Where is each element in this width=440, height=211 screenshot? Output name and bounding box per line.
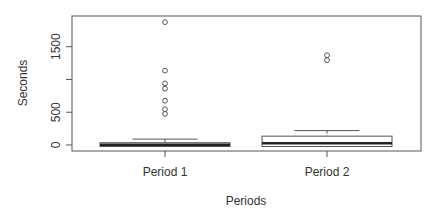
outlier-point (325, 53, 330, 58)
y-tick-label: 0 (49, 141, 63, 148)
outlier-point (163, 20, 168, 25)
plot-area (72, 16, 421, 151)
y-tick-label: 500 (49, 102, 63, 122)
iqr-box (262, 136, 392, 146)
box-2 (262, 53, 392, 147)
box-1 (100, 20, 230, 147)
x-tick-label: Period 1 (143, 165, 188, 179)
x-axis-title: Periods (226, 194, 267, 208)
box-plot-chart: 05001500 Period 1Period 2 Periods Second… (0, 0, 440, 211)
y-axis: 05001500 (49, 33, 72, 148)
y-tick-label: 1500 (49, 33, 63, 60)
x-tick-label: Period 2 (305, 165, 350, 179)
outlier-point (163, 107, 168, 112)
outlier-point (163, 111, 168, 116)
x-axis: Period 1Period 2 (143, 151, 350, 179)
outlier-point (163, 98, 168, 103)
outlier-point (325, 58, 330, 63)
y-axis-title: Seconds (16, 60, 30, 107)
plot-frame (72, 16, 421, 151)
outlier-point (163, 81, 168, 86)
outlier-point (163, 68, 168, 73)
outlier-point (163, 86, 168, 91)
